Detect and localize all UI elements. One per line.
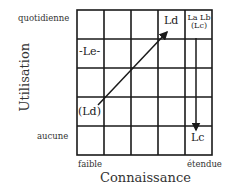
x-axis-right-label: étendue <box>187 159 222 169</box>
cell-label-le: -Le- <box>79 45 100 58</box>
x-axis-left-label: faible <box>78 159 102 169</box>
cell-label-lc: Lc <box>191 131 204 144</box>
x-axis-title: Connaissance <box>100 170 191 185</box>
cell-label-la-lb: La Lb (Lc) <box>186 14 212 30</box>
cell-label-ld: Ld <box>164 14 178 27</box>
lc-paren-text: (Lc) <box>186 22 212 30</box>
y-axis-top-label: quotidienne <box>18 13 69 23</box>
y-axis-title: Utilisation <box>17 52 32 112</box>
cell-label-ld-paren: (Ld) <box>78 105 101 118</box>
y-axis-bottom-label: aucune <box>37 131 68 141</box>
